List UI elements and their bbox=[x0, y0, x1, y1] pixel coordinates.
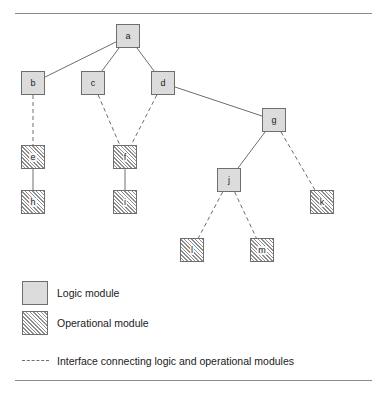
node-label-d: d bbox=[160, 79, 165, 88]
edge-j-m bbox=[235, 192, 257, 238]
edge-g-k bbox=[281, 132, 315, 190]
node-label-k: k bbox=[319, 198, 326, 207]
edge-c-f bbox=[98, 95, 120, 145]
figure-bottom-rule bbox=[15, 380, 372, 381]
node-c: c bbox=[81, 71, 105, 95]
node-label-m: m bbox=[257, 246, 267, 255]
node-label-c: c bbox=[91, 79, 96, 88]
edge-g-j bbox=[238, 132, 265, 168]
legend-label-interface-line: Interface connecting logic and operation… bbox=[57, 355, 294, 367]
node-l: l bbox=[180, 238, 204, 262]
node-label-g: g bbox=[271, 116, 276, 125]
node-d: d bbox=[151, 71, 175, 95]
node-g: g bbox=[262, 108, 286, 132]
node-label-a: a bbox=[125, 32, 130, 41]
node-label-j: j bbox=[228, 176, 230, 185]
node-k: k bbox=[310, 190, 334, 214]
legend-swatch-interface-line bbox=[22, 360, 49, 361]
node-j: j bbox=[217, 168, 241, 192]
node-f: f bbox=[113, 145, 137, 169]
legend-swatch-logic-module bbox=[22, 281, 48, 305]
node-label-e: e bbox=[29, 153, 36, 162]
legend-label-operational-module: Operational module bbox=[57, 317, 149, 329]
edge-j-l bbox=[198, 192, 222, 238]
node-label-h: h bbox=[29, 198, 36, 207]
node-a: a bbox=[116, 24, 140, 48]
node-i: i bbox=[113, 190, 137, 214]
legend-swatch-operational-module bbox=[22, 311, 48, 335]
legend-label-logic-module: Logic module bbox=[57, 287, 119, 299]
figure-panel: abcdgefjhiklm Logic module Operational m… bbox=[0, 0, 388, 396]
node-e: e bbox=[21, 145, 45, 169]
node-label-f: f bbox=[123, 153, 128, 162]
node-label-i: i bbox=[123, 198, 127, 207]
edge-a-c bbox=[102, 48, 119, 71]
edge-d-g bbox=[175, 87, 262, 116]
node-m: m bbox=[250, 238, 274, 262]
edge-a-d bbox=[137, 48, 154, 71]
node-label-b: b bbox=[30, 79, 35, 88]
figure-top-rule bbox=[15, 13, 372, 14]
edge-d-f bbox=[131, 95, 157, 145]
node-h: h bbox=[21, 190, 45, 214]
node-label-l: l bbox=[190, 246, 194, 255]
node-b: b bbox=[21, 71, 45, 95]
